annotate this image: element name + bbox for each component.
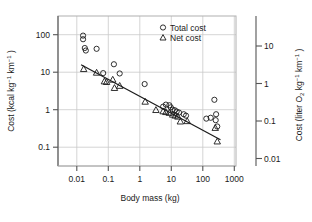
plot-background xyxy=(58,16,236,166)
y2-tick-label-0.1: 0.1 xyxy=(264,116,276,126)
right-axis: 10 1 0.1 0.01 xyxy=(256,16,281,166)
legend-label-total-cost: Total cost xyxy=(170,23,207,33)
y-tick-label-10: 10 xyxy=(41,67,51,77)
locomotion-cost-scatter-chart: 100 10 1 0.1 Cost (kcal kg−1 km−1 ) 10 1… xyxy=(0,0,312,222)
x-tick-label-10: 10 xyxy=(167,174,177,184)
legend-label-net-cost: Net cost xyxy=(170,33,202,43)
x-tick-label-100: 100 xyxy=(196,174,210,184)
y-tick-label-0.1: 0.1 xyxy=(38,142,50,152)
x-axis: 0.01 0.1 1 10 100 1000 xyxy=(58,166,244,184)
x-tick-label-0.1: 0.1 xyxy=(102,174,114,184)
x-tick-label-1000: 1000 xyxy=(225,174,244,184)
x-axis-title: Body mass (kg) xyxy=(120,193,179,203)
y2-tick-label-10: 10 xyxy=(264,41,274,51)
y2-axis-title: Cost (liter O2 kg−1 km−1 ) xyxy=(294,49,305,142)
y2-tick-label-1: 1 xyxy=(264,79,269,89)
x-tick-label-1: 1 xyxy=(137,174,142,184)
y-tick-label-100: 100 xyxy=(36,30,50,40)
y-axis-title: Cost (kcal kg−1 km−1 ) xyxy=(6,50,16,132)
left-axis: 100 10 1 0.1 xyxy=(36,16,58,166)
y-tick-label-1: 1 xyxy=(45,105,50,115)
x-tick-label-0.01: 0.01 xyxy=(69,174,86,184)
figure-container: 100 10 1 0.1 Cost (kcal kg−1 km−1 ) 10 1… xyxy=(0,0,312,222)
y2-tick-label-0.01: 0.01 xyxy=(264,154,281,164)
